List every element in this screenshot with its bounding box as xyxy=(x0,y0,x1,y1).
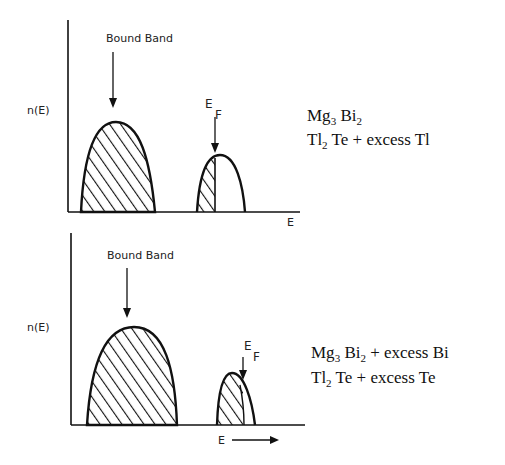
bottom-composition-line-2: Tl2 Te + excess Te xyxy=(311,368,435,389)
bottom-bound-band-label: Bound Band xyxy=(107,249,174,262)
top-second-band-filled xyxy=(197,155,245,212)
arrow-head-icon xyxy=(109,98,117,108)
top-composition-line-2: Tl2 Te + excess Tl xyxy=(307,130,430,151)
top-y-label: n(E) xyxy=(27,104,50,117)
arrow-head-icon xyxy=(123,308,131,318)
bottom-panel: n(E) E Bound Band E F Mg3 Bi2 + excess B… xyxy=(27,233,449,447)
bottom-x-label: E xyxy=(218,434,225,447)
bottom-fermi-label-sub: F xyxy=(253,350,260,364)
top-bound-band xyxy=(81,122,155,212)
arrow-head-icon xyxy=(211,143,219,153)
top-x-label: E xyxy=(287,216,294,229)
bottom-fermi-label-main: E xyxy=(244,339,252,353)
arrow-right-icon xyxy=(270,436,279,444)
bottom-y-label: n(E) xyxy=(27,321,50,334)
top-composition-line-1: Mg3 Bi2 xyxy=(307,106,362,127)
bottom-bound-band xyxy=(87,327,177,425)
band-diagram: n(E) E Bound Band E F Mg3 Bi2 Tl2 Te + e… xyxy=(0,0,505,465)
bottom-composition-line-1: Mg3 Bi2 + excess Bi xyxy=(311,343,449,364)
top-fermi-label-main: E xyxy=(205,97,213,111)
top-bound-band-label: Bound Band xyxy=(106,32,173,45)
top-panel: n(E) E Bound Band E F Mg3 Bi2 Tl2 Te + e… xyxy=(27,20,430,229)
top-fermi-label-sub: F xyxy=(215,108,222,122)
